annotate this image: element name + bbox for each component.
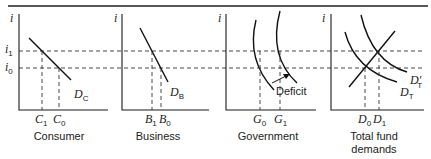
business-title: Business (136, 130, 181, 142)
db-label: DB (169, 85, 184, 101)
total-title-line1: Total fund (350, 130, 398, 142)
business-axes (122, 14, 209, 110)
total-title-line2: demands (351, 143, 397, 155)
panel-business: i DB B1 B0 Business (114, 11, 209, 142)
b1-label: B1 (145, 112, 157, 128)
dt-prime-label: D′T (409, 73, 422, 90)
total-demand-curve-dt (345, 32, 397, 82)
deficit-label: Deficit (276, 85, 307, 97)
business-demand-curve (140, 28, 168, 82)
dc-label: DC (73, 87, 89, 103)
g1-label: G1 (274, 112, 288, 128)
consumer-demand-curve (29, 38, 71, 80)
c0-label: C0 (53, 112, 66, 128)
dt-label: DT (399, 85, 414, 101)
deficit-arrow (272, 76, 286, 83)
government-y-axis-label: i (218, 11, 221, 25)
consumer-axes (19, 14, 108, 110)
b0-label: B0 (159, 112, 171, 128)
g0-label: G0 (253, 112, 267, 128)
consumer-title: Consumer (34, 130, 85, 142)
total-y-axis-label: i (322, 11, 325, 25)
i0-label: i0 (5, 60, 13, 76)
i1-label: i1 (5, 42, 13, 58)
panel-consumer: i DC C1 C0 Consumer (10, 11, 108, 142)
government-demand-curve-g0 (253, 20, 274, 90)
consumer-y-axis-label: i (10, 11, 13, 25)
d1-label: D1 (372, 112, 387, 128)
panel-total-fund-demands: i D′T DT D0 D1 Total fund demands (322, 11, 424, 155)
panel-government: i Deficit G0 G1 Government (218, 11, 316, 142)
government-title: Government (238, 130, 299, 142)
interest-rate-demand-diagram: i1 i0 i DC C1 C0 Consumer i DB B1 B0 Bus… (0, 0, 431, 159)
business-y-axis-label: i (114, 11, 117, 25)
c1-label: C1 (35, 112, 48, 128)
d0-label: D0 (357, 112, 372, 128)
